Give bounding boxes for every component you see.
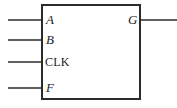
output-label-g: G xyxy=(128,13,137,26)
diagram-canvas: A B CLK F G xyxy=(0,0,177,108)
input-label-a: A xyxy=(46,13,54,26)
input-label-f: F xyxy=(46,81,54,94)
logic-block-rectangle xyxy=(42,5,140,99)
input-label-clk: CLK xyxy=(45,56,70,68)
input-label-b: B xyxy=(46,33,54,46)
logic-block-diagram xyxy=(0,0,177,108)
